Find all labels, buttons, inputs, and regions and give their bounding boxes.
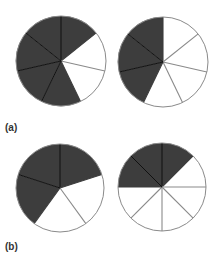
pie-a-right: [118, 17, 208, 107]
pie-b-left: [16, 144, 104, 232]
panel-label-a: (a): [5, 122, 17, 133]
panel-label-b: (b): [5, 241, 18, 252]
pie-a-left: [16, 16, 106, 106]
pie-b-right: [118, 143, 206, 231]
fraction-pie-figure: [0, 0, 220, 263]
